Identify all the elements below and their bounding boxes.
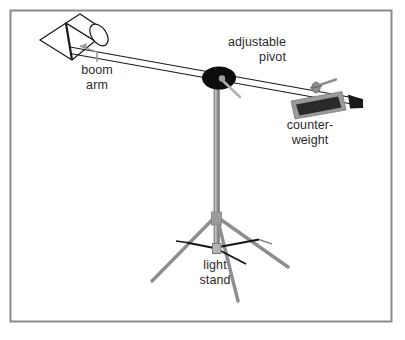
label-counterweight-line2: weight xyxy=(291,133,329,147)
tripod-collar xyxy=(212,212,222,225)
diagram-root: boom arm adjustable pivot counter- weigh… xyxy=(0,0,405,340)
pivot-center-bolt xyxy=(219,75,225,81)
stand-column-highlight xyxy=(215,78,217,254)
label-boom-arm-line2: arm xyxy=(86,78,108,92)
tripod-hub xyxy=(213,244,222,254)
label-light-stand-line2: stand xyxy=(199,273,230,287)
label-counterweight-line1: counter- xyxy=(287,118,334,132)
label-adjustable-pivot-line2: pivot xyxy=(259,50,286,64)
label-boom-arm-line1: boom xyxy=(81,63,113,77)
label-light-stand-line1: light xyxy=(203,258,227,272)
label-adjustable-pivot-line1: adjustable xyxy=(228,35,286,49)
boom-light-stand-diagram: boom arm adjustable pivot counter- weigh… xyxy=(0,0,405,340)
